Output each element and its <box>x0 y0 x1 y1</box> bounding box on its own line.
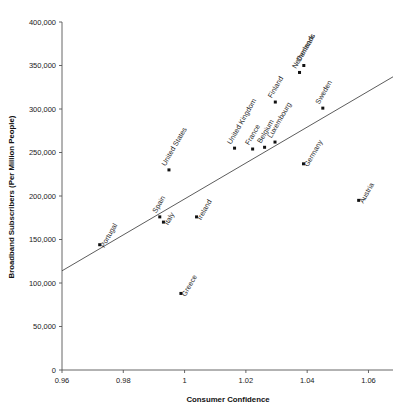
x-tick-label: 1.04 <box>300 376 315 385</box>
data-point <box>302 64 305 67</box>
data-point <box>274 101 277 104</box>
x-tick-label: 1.02 <box>239 376 254 385</box>
data-point <box>263 146 266 149</box>
data-point-label: Finland <box>266 75 286 100</box>
y-tick-label: 150,000 <box>29 235 56 244</box>
y-tick-label: 300,000 <box>29 105 56 114</box>
y-tick-label: 100,000 <box>29 279 56 288</box>
scatter-plot-figure: 050,000100,000150,000200,000250,000300,0… <box>0 0 411 415</box>
y-tick-label: 350,000 <box>29 61 56 70</box>
x-tick-label: 0.96 <box>55 376 70 385</box>
axis-tick-marks <box>59 22 368 373</box>
chart-canvas: 050,000100,000150,000200,000250,000300,0… <box>0 0 411 415</box>
data-point <box>298 71 301 74</box>
y-tick-label: 50,000 <box>33 322 56 331</box>
y-axis-title: Broadband Subscribers (Per Million Peopl… <box>7 115 16 278</box>
trend-line <box>62 77 393 271</box>
y-tick-label: 0 <box>52 366 56 375</box>
axis-lines <box>62 22 393 370</box>
data-point-label: Ireland <box>195 198 214 222</box>
x-tick-label: 1.06 <box>361 376 376 385</box>
data-point-label: Italy <box>162 210 177 226</box>
data-point-label: Spain <box>150 194 167 214</box>
data-point-label: Germany <box>302 138 325 168</box>
x-tick-label: 0.98 <box>116 376 131 385</box>
data-point-label: Denmark <box>294 33 317 63</box>
y-tick-label: 250,000 <box>29 148 56 157</box>
data-point <box>251 148 254 151</box>
y-tick-label: 400,000 <box>29 18 56 27</box>
x-axis-title: Consumer Confidence <box>186 395 270 404</box>
data-point <box>274 141 277 144</box>
x-tick-label: 1 <box>183 376 187 385</box>
y-tick-label: 200,000 <box>29 192 56 201</box>
data-point-labels: PortugalSpainItalyGreeceUnited StatesIre… <box>98 32 376 298</box>
data-point-label: Sweden <box>313 79 334 106</box>
data-point-label: Portugal <box>98 221 119 249</box>
data-point <box>167 168 170 171</box>
regression-line <box>62 77 393 271</box>
data-point <box>321 107 324 110</box>
data-point <box>233 147 236 150</box>
data-point-label: Austria <box>357 181 376 205</box>
data-point-label: Greece <box>179 273 199 298</box>
data-point <box>158 215 161 218</box>
x-axis-tick-labels: 0.960.9811.021.041.06 <box>55 376 376 385</box>
data-point-label: United States <box>159 125 189 167</box>
y-axis-tick-labels: 050,000100,000150,000200,000250,000300,0… <box>29 18 56 375</box>
